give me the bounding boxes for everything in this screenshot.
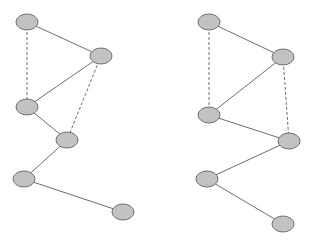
left-graph <box>13 14 134 220</box>
node-f <box>112 204 134 220</box>
node-b <box>272 49 294 65</box>
node-a <box>198 14 220 30</box>
edge-a-b <box>27 22 101 56</box>
right-graph <box>196 14 300 232</box>
node-a <box>16 14 38 30</box>
dashed-edge-b-d <box>67 56 101 140</box>
edge-c-d <box>209 115 289 141</box>
node-b <box>90 48 112 64</box>
edge-e-f <box>207 179 283 224</box>
dashed-edge-b-d <box>283 57 289 141</box>
edge-b-c <box>209 57 283 115</box>
node-d <box>56 132 78 148</box>
edge-a-b <box>209 22 283 57</box>
edge-b-c <box>27 56 101 107</box>
node-e <box>13 171 35 187</box>
node-c <box>16 99 38 115</box>
node-d <box>278 133 300 149</box>
diagram-canvas <box>0 0 313 244</box>
node-c <box>198 107 220 123</box>
node-e <box>196 171 218 187</box>
node-f <box>272 216 294 232</box>
graph-diagram <box>0 0 313 244</box>
edge-e-f <box>24 179 123 212</box>
edge-d-e <box>207 141 289 179</box>
